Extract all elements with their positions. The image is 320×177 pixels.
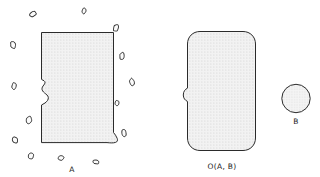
noise-speck	[92, 159, 99, 164]
shape-set-a	[42, 33, 118, 143]
morphological-opening-figure: A O(A, B) B	[0, 0, 320, 177]
label-opening-result: O(A, B)	[208, 163, 237, 171]
noise-speck	[12, 82, 17, 89]
noise-speck	[129, 78, 135, 86]
noise-speck	[29, 10, 37, 17]
figure-canvas	[0, 0, 320, 177]
noise-speck	[10, 41, 17, 50]
noise-speck	[112, 24, 119, 32]
noise-speck	[58, 155, 65, 161]
noise-speck	[119, 52, 125, 60]
noise-speck	[11, 136, 19, 144]
noise-speck	[28, 152, 35, 159]
noise-speck	[121, 129, 126, 137]
label-set-a: A	[69, 166, 74, 174]
shape-opening-result	[183, 32, 255, 151]
shape-structuring-element-b	[282, 84, 310, 112]
noise-speck	[25, 116, 32, 125]
noise-speck	[82, 8, 87, 15]
label-structuring-element-b: B	[293, 118, 298, 126]
noise-speck	[115, 100, 119, 105]
